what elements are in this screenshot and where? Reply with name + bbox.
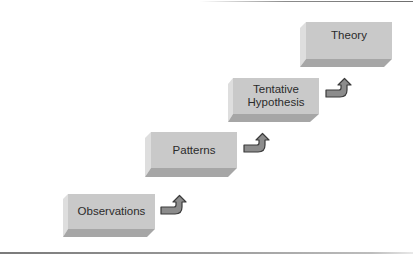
curved-up-arrow-icon [325, 78, 351, 100]
step-theory: Theory [300, 21, 395, 68]
step-label: Patterns [151, 132, 237, 168]
step-patterns: Patterns [145, 131, 240, 178]
step-tentative-hypothesis: Tentative Hypothesis [228, 77, 322, 123]
bottom-rule [0, 252, 413, 254]
step-observations: Observations [63, 193, 158, 238]
step-label: Theory [306, 22, 392, 48]
step-label: Observations [68, 194, 155, 229]
curved-up-arrow-icon [160, 195, 186, 217]
step-label: Tentative Hypothesis [233, 78, 319, 114]
top-rule [200, 1, 413, 2]
curved-up-arrow-icon [243, 133, 269, 155]
